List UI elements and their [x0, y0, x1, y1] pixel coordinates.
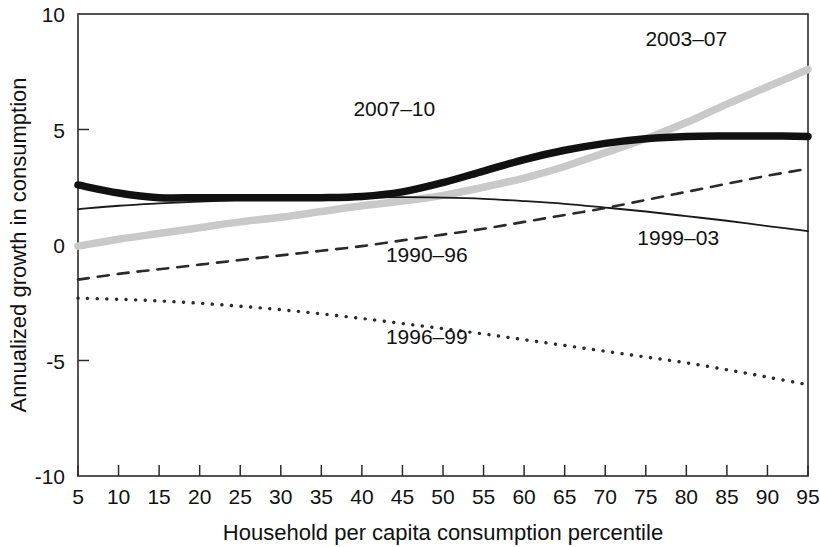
series-label-2003-07: 2003–07 [645, 27, 727, 50]
x-tick-label: 35 [310, 485, 333, 508]
y-tick-label: 5 [53, 119, 65, 142]
y-tick-label: 0 [53, 234, 65, 257]
x-tick-label: 85 [715, 485, 738, 508]
x-tick-label: 45 [391, 485, 414, 508]
x-tick-label: 55 [472, 485, 495, 508]
annualized-growth-line-chart: -10-50510 510152025303540455055606570758… [0, 0, 820, 547]
x-tick-label: 40 [350, 485, 373, 508]
x-tick-label: 70 [594, 485, 617, 508]
y-tick-label: -5 [46, 350, 65, 373]
x-axis-tick-group: 5101520253035404550556065707580859095 [72, 465, 820, 508]
x-tick-label: 95 [796, 485, 819, 508]
x-tick-label: 50 [431, 485, 454, 508]
x-tick-label: 65 [553, 485, 576, 508]
x-tick-label: 5 [72, 485, 84, 508]
x-tick-label: 25 [229, 485, 252, 508]
series-label-1990-96: 1990–96 [386, 243, 468, 266]
x-tick-label: 30 [269, 485, 292, 508]
y-axis-title: Annualized growth in consumption [6, 77, 31, 412]
y-tick-label: 10 [42, 3, 65, 26]
series-label-1996-99: 1996–99 [386, 325, 468, 348]
series-line-2003-07 [78, 69, 808, 246]
x-tick-label: 60 [512, 485, 535, 508]
y-tick-label: -10 [35, 465, 65, 488]
x-tick-label: 20 [188, 485, 211, 508]
chart-container: -10-50510 510152025303540455055606570758… [0, 0, 820, 547]
x-tick-label: 90 [756, 485, 779, 508]
series-label-1999-03: 1999–03 [637, 226, 719, 249]
x-tick-label: 80 [675, 485, 698, 508]
series-label-2007-10: 2007–10 [353, 97, 435, 120]
x-tick-label: 75 [634, 485, 657, 508]
x-tick-label: 15 [147, 485, 170, 508]
x-axis-title: Household per capita consumption percent… [223, 520, 663, 545]
x-tick-label: 10 [107, 485, 130, 508]
